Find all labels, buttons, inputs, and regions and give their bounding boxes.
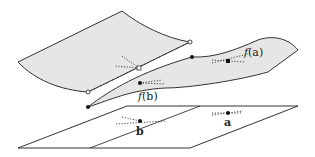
b-label: b [136,125,144,138]
fb-label: f(b) [137,90,158,103]
fa-label: f(a) [243,46,263,59]
a-label: a [224,116,231,129]
top-sheet-right-open-circle [188,40,192,44]
middle-sheet-left-dot [86,105,90,109]
top-sheet-left-open-circle [86,90,90,94]
diagram-canvas: f(b) f(a) b a [0,0,315,157]
base-plane [18,106,298,148]
middle-sheet-corner-dot [190,55,194,59]
